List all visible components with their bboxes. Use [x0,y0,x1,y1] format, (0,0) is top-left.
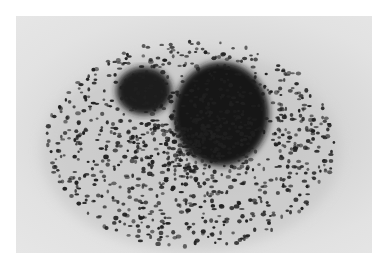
micrograph [16,16,372,253]
cell-illustration [16,16,372,253]
